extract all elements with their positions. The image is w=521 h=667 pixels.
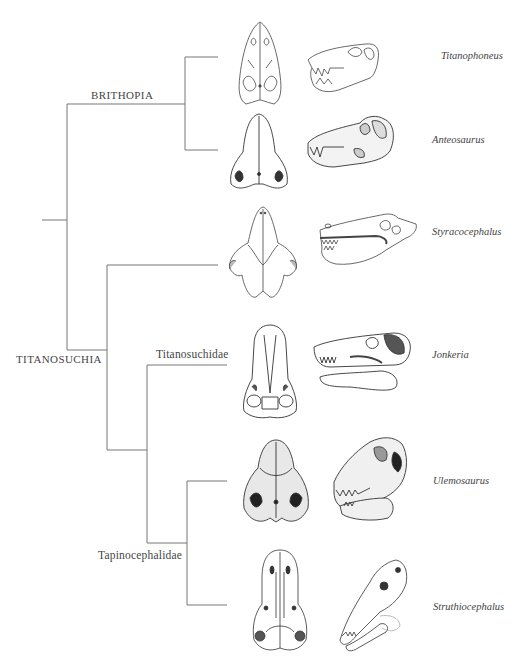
- struthiocephalus-lateral-skull: [336, 556, 410, 652]
- clade-label-brithopia: BRITHOPIA: [91, 89, 153, 101]
- struthiocephalus-dorsal-skull: [250, 548, 310, 654]
- styracocephalus-lateral-skull: [316, 210, 420, 270]
- taxon-label-titanophoneus: Titanophoneus: [441, 50, 503, 61]
- taxon-label-ulemosaurus: Ulemosaurus: [433, 475, 489, 486]
- anteosaurus-lateral-skull: [304, 113, 398, 175]
- titanophoneus-lateral-skull: [304, 38, 384, 98]
- clade-label-tapinocephalidae: Tapinocephalidae: [98, 549, 182, 561]
- ulemosaurus-dorsal-skull: [240, 438, 312, 528]
- taxon-label-anteosaurus: Anteosaurus: [432, 134, 485, 145]
- taxon-label-jonkeria: Jonkeria: [432, 349, 469, 360]
- taxon-label-struthiocephalus: Struthiocephalus: [433, 601, 504, 612]
- clade-label-titanosuchia: TITANOSUCHIA: [16, 353, 102, 365]
- clade-label-titanosuchidae: Titanosuchidae: [156, 348, 229, 360]
- jonkeria-dorsal-skull: [240, 323, 300, 423]
- ulemosaurus-lateral-skull: [330, 432, 410, 524]
- anteosaurus-dorsal-skull: [227, 112, 291, 194]
- jonkeria-lateral-skull: [310, 327, 414, 401]
- styracocephalus-dorsal-skull: [226, 205, 300, 301]
- taxon-label-styracocephalus: Styracocephalus: [432, 226, 501, 237]
- titanophoneus-dorsal-skull: [234, 20, 286, 106]
